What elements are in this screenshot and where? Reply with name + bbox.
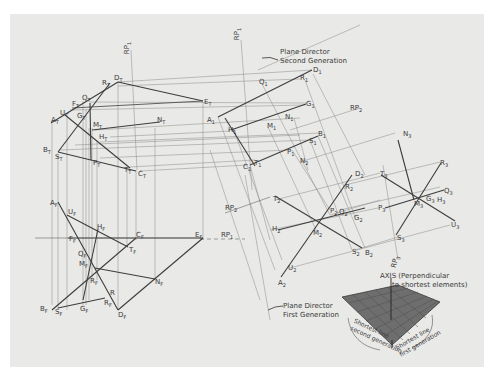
point-label-top-view: CT: [138, 171, 146, 179]
point-label-front-view: UF: [68, 209, 76, 217]
point-label-aux-view-3: H3: [437, 197, 445, 205]
point-label-aux-view-3: S3: [397, 235, 405, 243]
point-label-aux-view-1: D1: [313, 67, 322, 75]
point-label-aux-view-2: P2: [330, 208, 337, 216]
rp2-right-label: RP2: [350, 105, 362, 113]
point-label-aux-view-2: B2: [365, 250, 373, 258]
point-label-front-view: HF: [97, 224, 105, 232]
point-label-aux-view-3: Q3: [444, 188, 453, 196]
point-label-aux-view-3: G3: [426, 196, 435, 204]
plane-director-second-note: Plane DirectorSecond Generation: [280, 48, 347, 66]
point-label-front-view: SF: [55, 309, 62, 317]
point-label-aux-view-2: R2: [345, 184, 353, 192]
point-label-aux-view-2: U2: [288, 265, 296, 273]
point-label-aux-view-2: H2: [272, 226, 280, 234]
point-label-top-view: TT: [124, 167, 131, 175]
point-label-front-view: NF: [155, 279, 163, 287]
point-label-aux-view-1: B1: [318, 131, 326, 139]
point-label-front-view: RF: [90, 278, 98, 286]
point-label-top-view: QT: [82, 95, 91, 103]
point-label-top-view: PT: [93, 160, 100, 168]
point-label-aux-view-2: A2: [278, 280, 286, 288]
point-label-front-view: CF: [136, 232, 144, 240]
point-label-aux-view-2: S2: [352, 249, 360, 257]
point-label-front-view: EF: [195, 232, 202, 240]
point-label-front-view: FF: [69, 236, 76, 244]
point-label-aux-view-1: C1: [243, 164, 251, 172]
point-label-aux-view-1: P1: [287, 149, 294, 157]
point-label-aux-view-1: R1: [300, 75, 308, 83]
point-label-front-view: TF: [129, 247, 136, 255]
point-label-front-view: QF: [78, 251, 86, 259]
point-label-front-view: BF: [40, 306, 48, 314]
point-label-front-view: MF: [79, 261, 88, 269]
point-label-aux-view-2: G2: [354, 215, 363, 223]
point-label-front-view: DF: [118, 312, 126, 320]
point-label-top-view: AT: [51, 117, 59, 125]
point-label-front-view: RF: [104, 300, 112, 308]
rp1-front-label: RP1: [221, 232, 233, 240]
point-label-top-view: DT: [114, 75, 122, 83]
point-label-top-view: NT: [157, 117, 165, 125]
point-label-top-view: RT: [102, 80, 110, 88]
point-label-top-view: BT: [43, 147, 51, 155]
point-label-aux-view-2: T2: [273, 196, 280, 204]
point-label-aux-view-1: Q1: [259, 79, 268, 87]
point-label-top-view: FT: [72, 101, 79, 109]
point-label-top-view: UT: [60, 110, 68, 118]
point-label-aux-view-1: N1: [285, 114, 293, 122]
rp2-left-label: RP2: [225, 205, 237, 213]
plane-director-first-note: Plane DirectorFirst Generation: [283, 302, 339, 320]
descriptive-geometry-drawing: [0, 0, 491, 378]
point-label-aux-view-3: R3: [440, 160, 448, 168]
point-label-top-view: HT: [99, 134, 107, 142]
point-label-aux-view-2: M2: [313, 230, 322, 238]
axis-note: AXIS (Perpendicularto shortest elements): [380, 272, 467, 290]
point-label-aux-view-2: Q2: [339, 209, 348, 217]
point-label-front-view: R: [110, 290, 115, 297]
point-label-aux-view-3: M3: [414, 201, 423, 209]
point-label-front-view: AF: [50, 200, 58, 208]
point-label-top-view: ST: [55, 154, 63, 162]
point-label-aux-view-3: N3: [403, 131, 411, 139]
point-label-aux-view-1: M1: [267, 123, 276, 131]
point-label-top-view: GT: [77, 113, 86, 121]
rp1-top-label: RP1: [234, 28, 242, 40]
rp1-top-left-label: RP1: [124, 42, 132, 54]
point-label-aux-view-1: G1: [306, 101, 315, 109]
point-label-aux-view-1: N2: [300, 158, 308, 166]
point-label-aux-view-3: P3: [378, 205, 385, 213]
point-label-aux-view-1: T1: [254, 160, 261, 168]
point-label-aux-view-1: A1: [207, 117, 215, 125]
point-label-aux-view-2: D2: [355, 171, 364, 179]
point-label-top-view: MT: [93, 122, 102, 130]
point-label-aux-view-3: T3: [380, 171, 387, 179]
point-label-aux-view-1: H1: [228, 127, 236, 135]
point-label-aux-view-3: U3: [451, 222, 459, 230]
point-label-aux-view-1: S1: [309, 138, 317, 146]
point-label-front-view: GF: [80, 306, 88, 314]
point-label-top-view: ET: [204, 99, 212, 107]
